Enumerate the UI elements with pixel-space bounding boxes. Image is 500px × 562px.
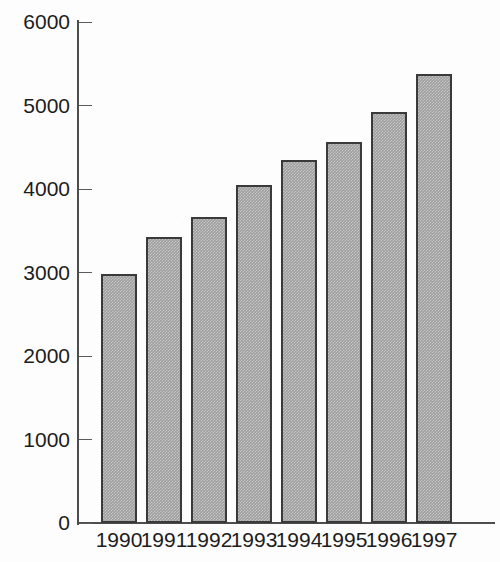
bar-chart-figure: 0100020003000400050006000 19901991199219… <box>0 0 500 562</box>
bar-1990 <box>101 274 137 523</box>
bars-group <box>0 0 500 562</box>
bar-1995 <box>326 142 362 523</box>
bar-1992 <box>191 217 227 523</box>
x-axis-tick-label-1997: 1997 <box>404 528 464 552</box>
bar-1996 <box>371 112 407 523</box>
bar-1997 <box>416 74 452 523</box>
bar-1993 <box>236 185 272 523</box>
bar-1994 <box>281 160 317 523</box>
bar-1991 <box>146 237 182 523</box>
